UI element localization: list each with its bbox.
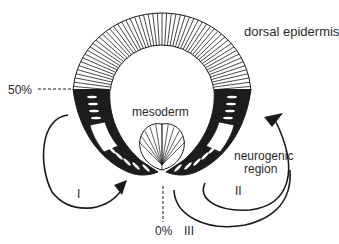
label-arrow-I: I: [77, 188, 80, 200]
dorsal-epidermis-cells: [73, 13, 251, 95]
label-arrow-II: II: [235, 185, 242, 197]
label-neurogenic: neurogenic: [234, 150, 293, 162]
label-arrow-III: III: [184, 225, 194, 237]
label-dorsal-epidermis: dorsal epidermis: [244, 25, 339, 38]
arrow-III: [174, 170, 290, 227]
label-50-percent: 50%: [8, 84, 32, 96]
label-mesoderm: mesoderm: [132, 106, 189, 118]
label-0-percent: 0%: [155, 225, 172, 237]
label-region: region: [244, 163, 277, 175]
mesoderm-cells: [139, 124, 185, 170]
